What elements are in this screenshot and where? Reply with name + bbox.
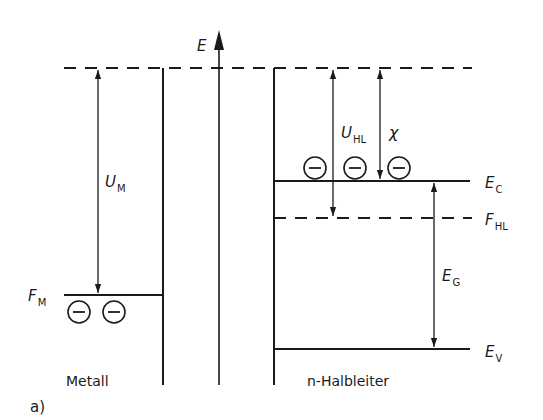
panel-label: a) xyxy=(30,398,45,416)
semiconductor-work-function-label: UHL xyxy=(341,124,367,145)
conduction-electron-icon xyxy=(344,157,366,179)
conduction-band-label: EC xyxy=(485,174,502,195)
conduction-electron-icon xyxy=(304,157,326,179)
energy-axis-arrow-icon xyxy=(214,30,224,50)
valence-band-label: EV xyxy=(485,343,502,364)
band-gap-label: EG xyxy=(442,267,460,288)
semiconductor-fermi-label: FHL xyxy=(485,211,508,232)
metal-work-function-label: UM xyxy=(105,173,126,194)
metal-fermi-label: FM xyxy=(28,287,46,308)
energy-axis-label: E xyxy=(197,37,207,55)
metal-electron-icon xyxy=(68,301,90,323)
semiconductor-region-label: n-Halbleiter xyxy=(307,373,389,389)
band-diagram: E FM UM Metall EC FHL EV UHL χ xyxy=(0,0,543,420)
metal-region-label: Metall xyxy=(66,373,109,389)
metal-electron-icon xyxy=(103,301,125,323)
conduction-electron-icon xyxy=(388,157,410,179)
electron-affinity-label: χ xyxy=(388,123,399,142)
